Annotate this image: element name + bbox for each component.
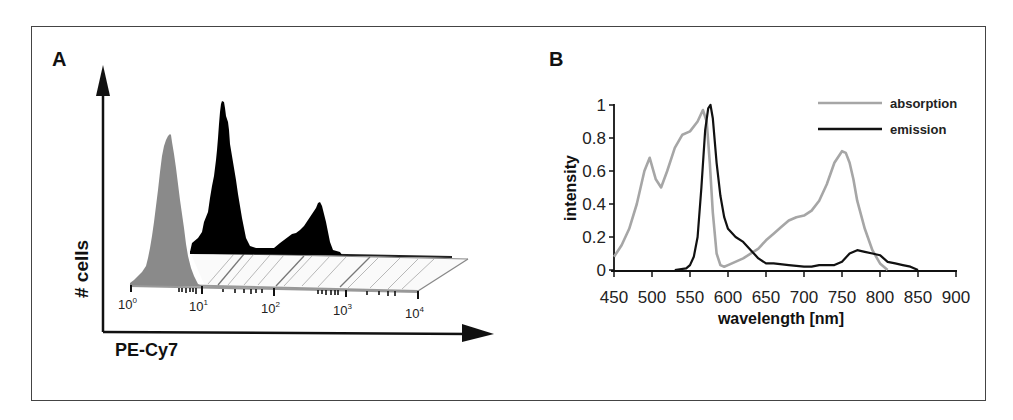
log-tick-label: 100 [118,296,137,312]
log-tick-label: 102 [261,300,280,316]
histogram-stained [190,101,342,255]
x-tick-label: 450 [600,288,628,307]
legend-label-absorption: absorption [890,96,957,111]
b-y-tick-labels: 0 0.2 0.4 0.6 0.8 1 [582,96,606,280]
x-axis-arrow-icon [462,324,494,342]
b-x-tick-labels: 450 500 550 600 650 700 750 800 850 900 [600,288,970,307]
y-tick-label: 0 [597,261,606,280]
y-tick-label: 0.2 [582,228,606,247]
y-tick-label: 0.4 [582,195,606,214]
panel-a-label: A [52,48,66,70]
b-x-axis-title: wavelength [nm] [717,310,844,327]
panel-b: B 0 0.2 0.4 0.6 0.8 1 450 [549,48,970,327]
y-axis-arrow-icon [96,65,110,96]
x-axis-line [103,332,470,334]
y-tick-label: 0.6 [582,162,606,181]
legend-label-emission: emission [890,122,946,137]
y-tick-label: 1 [597,96,606,115]
panel-a: A # cells PE-Cy7 [52,48,494,360]
x-tick-label: 500 [638,288,666,307]
figure-canvas: A # cells PE-Cy7 [0,0,1013,420]
legend: absorption emission [818,96,957,137]
log-tick-labels: 100 101 102 103 104 [118,296,424,321]
log-tick-label: 104 [405,305,424,321]
x-tick-label: 600 [714,288,742,307]
y-axis-title: # cells [71,240,92,298]
x-tick-label: 650 [752,288,780,307]
log-tick-label: 101 [189,298,208,314]
x-tick-label: 900 [942,288,970,307]
x-tick-label: 550 [676,288,704,307]
x-tick-label: 800 [866,288,894,307]
log-tick-label: 103 [333,302,352,318]
panel-b-label: B [549,48,563,70]
y-tick-label: 0.8 [582,129,606,148]
b-y-axis-title: intensity [562,155,579,221]
x-tick-label: 850 [904,288,932,307]
absorption-line [614,110,888,270]
x-tick-label: 700 [790,288,818,307]
histogram-control [130,134,202,286]
x-tick-label: 750 [828,288,856,307]
x-axis-title: PE-Cy7 [115,340,178,360]
